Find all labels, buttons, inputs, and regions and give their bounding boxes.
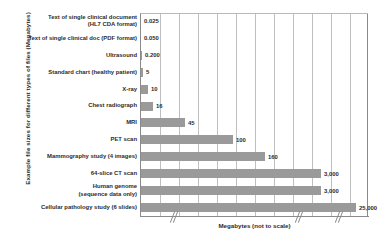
bar-row: Human genome(sequence data only)3,000	[0, 182, 387, 199]
bar	[141, 186, 321, 195]
bar-value-label: 0.025	[144, 18, 159, 24]
bar-row: Mammography study (4 images)160	[0, 148, 387, 165]
bar-container: 100	[141, 135, 246, 144]
bar-row: MRI45	[0, 115, 387, 132]
category-label: Human genome(sequence data only)	[2, 183, 137, 197]
bar-value-label: 45	[188, 120, 195, 126]
bar-row: Ultrasound0.200	[0, 47, 387, 64]
bar	[141, 152, 265, 161]
bar-row: PET scan100	[0, 131, 387, 148]
bar-container: 0.050	[141, 34, 159, 43]
bar-container: 10	[141, 85, 158, 94]
category-label: PET scan	[2, 136, 137, 143]
bar-value-label: 16	[156, 103, 163, 109]
bar-row: Text of single clinical doc (PDF format)…	[0, 30, 387, 47]
category-label: Cellular pathology study (6 slides)	[2, 204, 137, 211]
bar	[141, 118, 185, 127]
bar-container: 0.200	[141, 51, 160, 60]
bar	[141, 51, 142, 60]
bar-value-label: 0.200	[145, 52, 160, 58]
category-label: X-ray	[2, 86, 137, 93]
bar-row: X-ray10	[0, 81, 387, 98]
bar-value-label: 160	[268, 154, 278, 160]
bar-chart: Example file sizes for different types o…	[0, 0, 387, 241]
bar-container: 160	[141, 152, 278, 161]
category-label: Text of single clinical document(HL7 CDA…	[2, 14, 137, 28]
bar-rows: Text of single clinical document(HL7 CDA…	[0, 13, 387, 216]
bar-row: Standard chart (healthy patient)5	[0, 64, 387, 81]
category-label: Chest radiograph	[2, 102, 137, 109]
bar-container: 3,000	[141, 186, 339, 195]
bar	[141, 169, 321, 178]
bar-value-label: 3,000	[324, 171, 339, 177]
x-axis-line	[140, 216, 369, 217]
bar-container: 5	[141, 68, 149, 77]
bar-container: 25,000	[141, 203, 377, 212]
bar-container: 45	[141, 118, 195, 127]
category-label: Text of single clinical doc (PDF format)	[2, 35, 137, 42]
bar-container: 16	[141, 102, 163, 111]
x-axis-title: Megabytes (not to scale)	[140, 222, 369, 229]
bar-value-label: 100	[236, 137, 246, 143]
bar-value-label: 5	[146, 69, 149, 75]
category-label: 64-slice CT scan	[2, 170, 137, 177]
bar-value-label: 0.050	[144, 35, 159, 41]
bar-container: 0.025	[141, 17, 159, 26]
bar-row: Text of single clinical document(HL7 CDA…	[0, 13, 387, 30]
bar-container: 3,000	[141, 169, 339, 178]
bar-value-label: 10	[151, 86, 158, 92]
bar-value-label: 3,000	[324, 188, 339, 194]
category-label: Standard chart (healthy patient)	[2, 69, 137, 76]
bar-row: Cellular pathology study (6 slides)25,00…	[0, 199, 387, 216]
category-label: Ultrasound	[2, 52, 137, 59]
bar	[141, 203, 356, 212]
bar	[141, 68, 143, 77]
bar-value-label: 25,000	[359, 205, 377, 211]
bar	[141, 85, 148, 94]
bar	[141, 102, 153, 111]
category-label: MRI	[2, 119, 137, 126]
category-label: Mammography study (4 images)	[2, 153, 137, 160]
bar-row: 64-slice CT scan3,000	[0, 165, 387, 182]
bar-row: Chest radiograph16	[0, 98, 387, 115]
bar	[141, 135, 233, 144]
